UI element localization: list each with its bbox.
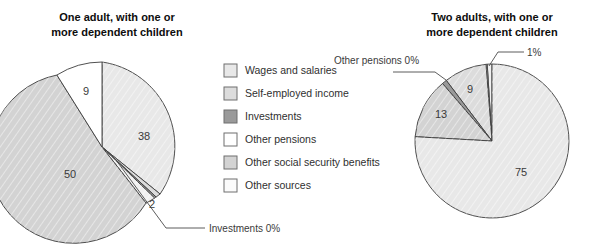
- callout-right-other-pensions-label: Other pensions 0%: [334, 55, 419, 66]
- slice-label-left-other-sources: 2: [149, 198, 155, 210]
- chart-right: Two adults, with one or more dependent c…: [334, 11, 569, 218]
- chart-left-title-line2: more dependent children: [51, 26, 183, 38]
- chart-right-title-line2: more dependent children: [426, 26, 558, 38]
- slice-label-right-self-employed: 9: [467, 83, 473, 95]
- callout-right-other-sources-label: 1%: [527, 47, 542, 58]
- legend-swatch-icon-investments: [224, 110, 237, 123]
- legend-label-other-pensions: Other pensions: [245, 133, 316, 145]
- legend: Wages and salaries Self-employed income …: [224, 64, 380, 192]
- slice-label-left-other-pensions: 9: [83, 85, 89, 97]
- slice-label-left-wages: 38: [138, 130, 150, 142]
- legend-swatch-icon-other-social-security-benefits: [224, 156, 237, 169]
- legend-swatch-icon-other-sources: [224, 179, 237, 192]
- chart-left-title-line1: One adult, with one or: [59, 11, 175, 23]
- chart-right-title-line1: Two adults, with one or: [431, 11, 553, 23]
- legend-label-self-employed-income: Self-employed income: [245, 87, 349, 99]
- legend-label-wages-and-salaries: Wages and salaries: [245, 64, 337, 76]
- legend-swatch-icon-other-pensions: [224, 133, 237, 146]
- callout-left-investments-label: Investments 0%: [209, 223, 280, 234]
- legend-swatch-icon-self-employed-income: [224, 87, 237, 100]
- slice-label-right-wages: 75: [515, 166, 527, 178]
- legend-label-other-social-security-benefits: Other social security benefits: [245, 156, 380, 168]
- legend-label-other-sources: Other sources: [245, 179, 311, 191]
- legend-swatch-icon-wages-and-salaries: [224, 64, 237, 77]
- slice-label-left-other-social-security: 50: [64, 168, 76, 180]
- callout-leader-right-other-pensions: [393, 72, 446, 80]
- chart-left: One adult, with one or more dependent ch…: [0, 11, 280, 243]
- pie-charts-svg: One adult, with one or more dependent ch…: [0, 0, 592, 250]
- legend-label-investments: Investments: [245, 110, 302, 122]
- chart-figure: One adult, with one or more dependent ch…: [0, 0, 592, 250]
- slice-label-right-other-social-security: 13: [435, 108, 447, 120]
